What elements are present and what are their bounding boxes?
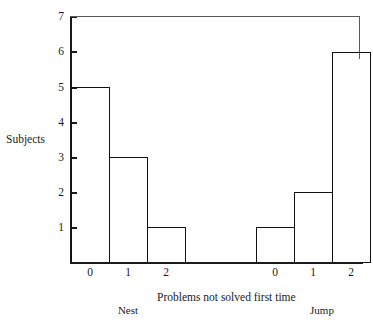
bar-nest-1 <box>109 157 148 263</box>
x-tick-label-nest-1: 1 <box>115 267 141 279</box>
bar-nest-0 <box>71 87 110 263</box>
bar-chart: 1 2 3 4 5 6 7 0 1 2 0 1 2 Problems not s… <box>0 0 373 332</box>
group-label-jump: Jump <box>292 305 352 316</box>
y-axis-title: Subjects <box>6 134 45 146</box>
x-tick-label-jump-0: 0 <box>262 267 288 279</box>
x-tick-label-nest-0: 0 <box>77 267 103 279</box>
x-tick-label-jump-2: 2 <box>338 267 364 279</box>
x-tick-label-nest-2: 2 <box>153 267 179 279</box>
x-tick-label-jump-1: 1 <box>300 267 326 279</box>
x-axis-line <box>70 262 363 264</box>
group-label-nest: Nest <box>98 305 158 316</box>
bar-jump-1 <box>294 192 333 263</box>
bar-jump-2 <box>332 52 371 263</box>
bar-nest-2 <box>147 227 186 263</box>
bar-jump-0 <box>256 227 295 263</box>
bars-layer <box>0 0 373 263</box>
x-axis-title: Problems not solved first time <box>157 292 296 304</box>
